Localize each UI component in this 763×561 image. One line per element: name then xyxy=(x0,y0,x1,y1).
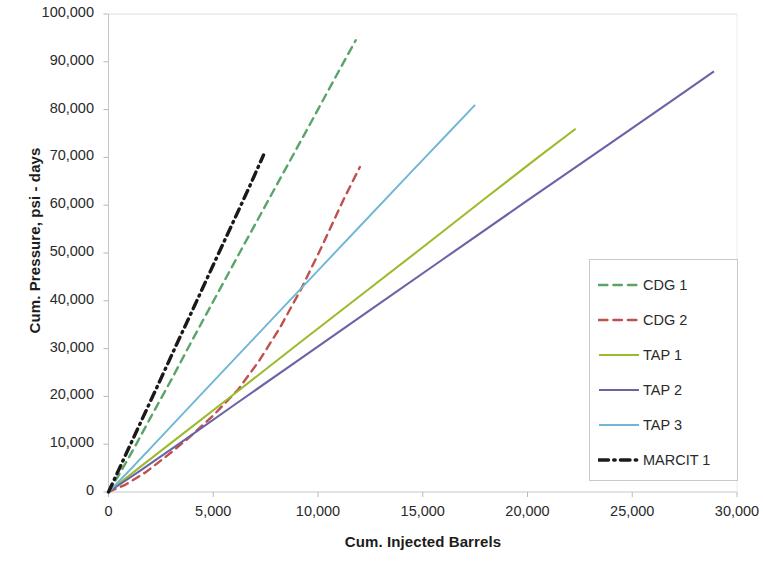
line-chart: Cum. Pressure, psi - days Cum. Injected … xyxy=(0,0,763,561)
legend-item-tap-1[interactable]: TAP 1 xyxy=(590,337,737,372)
legend-item-tap-3[interactable]: TAP 3 xyxy=(590,407,737,442)
legend-item-cdg-2[interactable]: CDG 2 xyxy=(590,302,737,337)
legend-label: MARCIT 1 xyxy=(643,452,710,468)
legend-swatch-icon xyxy=(598,278,640,292)
legend-label: TAP 1 xyxy=(643,347,682,363)
chart-legend: CDG 1CDG 2TAP 1TAP 2TAP 3MARCIT 1 xyxy=(589,259,738,481)
legend-swatch-icon xyxy=(598,313,640,327)
legend-swatch-icon xyxy=(598,348,640,362)
legend-item-marcit-1[interactable]: MARCIT 1 xyxy=(590,442,737,477)
legend-item-cdg-1[interactable]: CDG 1 xyxy=(590,267,737,302)
series-line-tap-1 xyxy=(109,129,576,492)
legend-label: CDG 1 xyxy=(643,277,687,293)
legend-label: CDG 2 xyxy=(643,312,687,328)
legend-label: TAP 3 xyxy=(643,417,682,433)
series-line-marcit-1 xyxy=(109,155,264,492)
series-line-tap-3 xyxy=(109,105,476,492)
series-line-cdg-1 xyxy=(109,40,356,492)
legend-swatch-icon xyxy=(598,453,640,467)
legend-swatch-icon xyxy=(598,418,640,432)
legend-swatch-icon xyxy=(598,383,640,397)
legend-label: TAP 2 xyxy=(643,382,682,398)
legend-item-tap-2[interactable]: TAP 2 xyxy=(590,372,737,407)
